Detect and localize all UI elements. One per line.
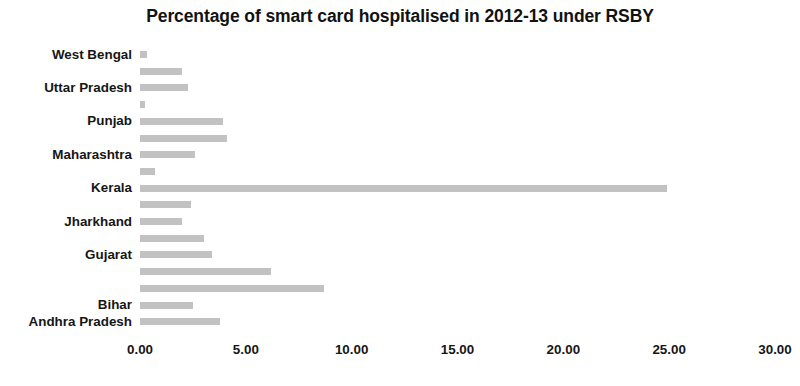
bar <box>140 251 212 258</box>
y-axis-label: Bihar <box>0 298 132 312</box>
bar-row <box>140 48 775 65</box>
bar-row <box>140 165 775 182</box>
bar <box>140 118 223 125</box>
x-axis-tick-label: 0.00 <box>127 342 153 357</box>
bar-row <box>140 232 775 249</box>
x-axis-tick-label: 15.00 <box>441 342 475 357</box>
bar-row <box>140 148 775 165</box>
bar-row <box>140 115 775 132</box>
y-axis-label: Punjab <box>0 114 132 128</box>
x-axis-tick-label: 25.00 <box>652 342 686 357</box>
bar <box>140 151 195 158</box>
x-axis-tick-label: 30.00 <box>758 342 792 357</box>
plot-area <box>140 48 775 332</box>
bar-row <box>140 282 775 299</box>
bar <box>140 235 204 242</box>
bar <box>140 101 145 108</box>
y-axis-label: West Bengal <box>0 48 132 62</box>
bar <box>140 318 220 325</box>
chart-container: Percentage of smart card hospitalised in… <box>0 0 800 386</box>
bar-row <box>140 299 775 316</box>
y-axis-label: Uttar Pradesh <box>0 81 132 95</box>
bar-row <box>140 215 775 232</box>
bar <box>140 285 324 292</box>
bar-row <box>140 182 775 199</box>
bar-row <box>140 132 775 149</box>
bar <box>140 201 191 208</box>
bar <box>140 168 155 175</box>
bar <box>140 84 188 91</box>
bar <box>140 268 271 275</box>
bar-row <box>140 265 775 282</box>
y-axis-label: Maharashtra <box>0 148 132 162</box>
bar-row <box>140 65 775 82</box>
bar <box>140 302 193 309</box>
bar-row <box>140 98 775 115</box>
x-axis-tick-label: 10.00 <box>335 342 369 357</box>
bar <box>140 185 667 192</box>
chart-title: Percentage of smart card hospitalised in… <box>0 6 800 27</box>
y-axis-category-labels: West BengalUttar PradeshPunjabMaharashtr… <box>0 48 132 332</box>
bar <box>140 135 227 142</box>
bar-row <box>140 315 775 332</box>
y-axis-label: Jharkhand <box>0 215 132 229</box>
bar-row <box>140 198 775 215</box>
x-axis-tick-label: 20.00 <box>547 342 581 357</box>
bar-row <box>140 248 775 265</box>
bar <box>140 51 147 58</box>
bar-row <box>140 81 775 98</box>
x-axis-tick-labels: 0.005.0010.0015.0020.0025.0030.00 <box>0 336 800 372</box>
bar <box>140 68 182 75</box>
bar <box>140 218 182 225</box>
y-axis-label: Gujarat <box>0 248 132 262</box>
y-axis-label: Kerala <box>0 181 132 195</box>
y-axis-label: Andhra Pradesh <box>0 315 132 329</box>
x-axis-tick-label: 5.00 <box>233 342 259 357</box>
